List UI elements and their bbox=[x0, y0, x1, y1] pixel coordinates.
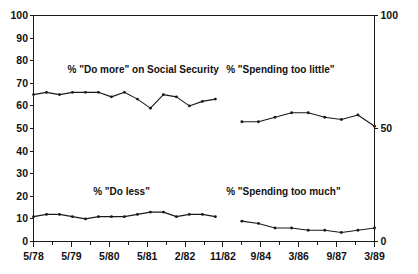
chart-series-group bbox=[32, 91, 376, 234]
series-data-point bbox=[84, 217, 87, 220]
series-data-point bbox=[32, 93, 35, 96]
series-data-point bbox=[136, 213, 139, 216]
series-data-point bbox=[149, 211, 152, 214]
series-data-point bbox=[290, 226, 293, 229]
series-data-point bbox=[162, 93, 165, 96]
series-annotation-label: % "Spending too little" bbox=[226, 65, 334, 75]
series-data-point bbox=[84, 91, 87, 94]
series-data-point bbox=[45, 91, 48, 94]
series-data-point bbox=[257, 120, 260, 123]
y-axis-left-tick: 30 bbox=[2, 168, 28, 179]
series-data-point bbox=[201, 213, 204, 216]
series-data-point bbox=[97, 91, 100, 94]
y-axis-left-tick: 80 bbox=[2, 55, 28, 66]
series-data-point bbox=[97, 215, 100, 218]
series-data-point bbox=[373, 226, 376, 229]
series-data-point bbox=[188, 104, 191, 107]
y-axis-left-tick: 10 bbox=[2, 213, 28, 224]
chart-plot-area bbox=[0, 0, 418, 274]
series-annotation-label: % "Do more" on Social Security bbox=[68, 65, 219, 75]
series-data-point bbox=[149, 107, 152, 110]
series-line bbox=[242, 113, 375, 127]
y-axis-right-tick: 0 bbox=[381, 236, 411, 247]
series-data-point bbox=[71, 215, 74, 218]
y-axis-left-tick: 0 bbox=[2, 236, 28, 247]
series-data-point bbox=[58, 213, 61, 216]
series-data-point bbox=[58, 93, 61, 96]
series-data-point bbox=[71, 91, 74, 94]
series-data-point bbox=[123, 215, 126, 218]
y-axis-left-tick: 50 bbox=[2, 123, 28, 134]
series-data-point bbox=[201, 100, 204, 103]
series-data-point bbox=[110, 95, 113, 98]
series-data-point bbox=[307, 229, 310, 232]
series-data-point bbox=[214, 215, 217, 218]
series-data-point bbox=[175, 95, 178, 98]
chart-axes bbox=[30, 16, 378, 247]
series-data-point bbox=[240, 220, 243, 223]
series-annotation-label: % "Spending too much" bbox=[226, 187, 340, 197]
series-data-point bbox=[188, 213, 191, 216]
series-data-point bbox=[373, 125, 376, 128]
y-axis-left-tick: 40 bbox=[2, 146, 28, 157]
series-data-point bbox=[356, 229, 359, 232]
series-data-point bbox=[323, 229, 326, 232]
series-data-point bbox=[162, 211, 165, 214]
chart-container: 1009080706050403020100 100500 5/785/795/… bbox=[0, 0, 418, 274]
series-data-point bbox=[136, 98, 139, 101]
y-axis-right-tick: 100 bbox=[381, 10, 411, 21]
y-axis-left-tick: 70 bbox=[2, 78, 28, 89]
y-axis-left-tick: 20 bbox=[2, 191, 28, 202]
series-data-point bbox=[32, 215, 35, 218]
series-data-point bbox=[356, 113, 359, 116]
series-data-point bbox=[274, 226, 277, 229]
series-data-point bbox=[274, 116, 277, 119]
y-axis-right-tick: 50 bbox=[381, 123, 411, 134]
x-axis-tick: 3/89 bbox=[353, 251, 397, 262]
series-data-point bbox=[340, 231, 343, 234]
series-data-point bbox=[290, 111, 293, 114]
series-data-point bbox=[340, 118, 343, 121]
series-data-point bbox=[307, 111, 310, 114]
y-axis-left-tick: 60 bbox=[2, 100, 28, 111]
y-axis-left-tick: 100 bbox=[2, 10, 28, 21]
series-data-point bbox=[214, 98, 217, 101]
series-annotation-label: % "Do less" bbox=[93, 187, 150, 197]
series-data-point bbox=[323, 116, 326, 119]
series-data-point bbox=[45, 213, 48, 216]
series-data-point bbox=[123, 91, 126, 94]
y-axis-left-tick: 90 bbox=[2, 33, 28, 44]
series-data-point bbox=[110, 215, 113, 218]
series-data-point bbox=[175, 215, 178, 218]
series-data-point bbox=[240, 120, 243, 123]
series-data-point bbox=[257, 222, 260, 225]
